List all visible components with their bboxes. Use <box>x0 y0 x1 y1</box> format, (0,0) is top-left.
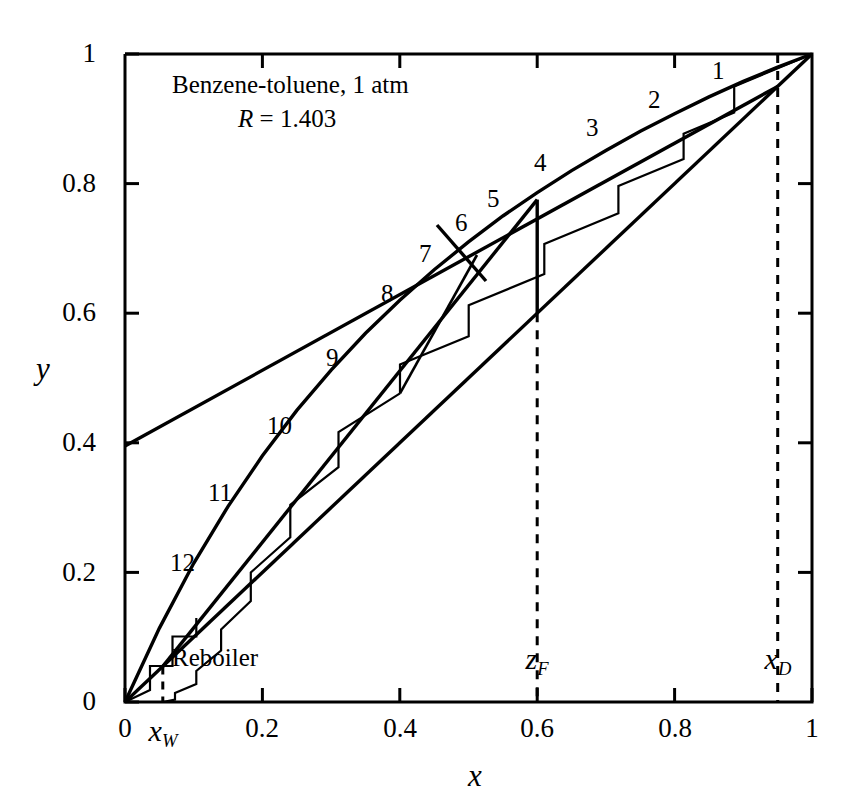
stage-label-8: 8 <box>381 281 394 306</box>
stage-label-4: 4 <box>534 150 547 175</box>
y-axis-right-ticks <box>798 184 812 573</box>
stripping-operating-line <box>163 200 537 667</box>
feed-stage-tie-line <box>400 255 477 393</box>
xd-subscript: D <box>778 658 791 679</box>
stage-label-2: 2 <box>648 87 661 112</box>
xw-label: xW <box>149 716 178 750</box>
reflux-ratio-symbol: R <box>238 105 253 132</box>
diagonal-45-line <box>125 54 812 702</box>
stage-label-1: 1 <box>712 58 725 83</box>
xw-symbol: x <box>149 714 162 747</box>
y-tick-label-0: 0 <box>83 688 97 715</box>
x-tick-label-0p2: 0.2 <box>245 715 279 742</box>
plot-canvas <box>0 0 855 810</box>
zf-subscript: F <box>537 658 548 679</box>
x-tick-label-1: 1 <box>805 715 819 742</box>
stage-label-3: 3 <box>586 115 599 140</box>
y-axis-title: y <box>36 353 50 384</box>
y-tick-label-0p2: 0.2 <box>62 559 96 586</box>
x-tick-label-0: 0 <box>118 715 132 742</box>
reflux-ratio-value: = 1.403 <box>253 105 336 132</box>
x-tick-label-0p8: 0.8 <box>658 715 692 742</box>
x-axis-ticks <box>125 688 812 702</box>
stage-label-9: 9 <box>326 345 339 370</box>
y-tick-label-0p6: 0.6 <box>62 299 96 326</box>
y-axis-ticks <box>125 54 139 702</box>
zf-symbol: z <box>525 642 537 675</box>
x-tick-label-0p4: 0.4 <box>383 715 417 742</box>
stage-label-11: 11 <box>208 480 232 505</box>
zf-label: zF <box>525 644 548 678</box>
stage-label-7: 7 <box>419 241 432 266</box>
y-tick-label-1: 1 <box>83 40 97 67</box>
stage-label-10: 10 <box>267 413 292 438</box>
xw-subscript: W <box>162 730 178 751</box>
y-tick-label-0p8: 0.8 <box>62 170 96 197</box>
stage-label-5: 5 <box>487 186 500 211</box>
y-tick-label-0p4: 0.4 <box>62 429 96 456</box>
stage-label-6: 6 <box>455 210 468 235</box>
mccabe-thiele-figure: 1 0.8 0.6 0.4 0.2 0 y 0 0.2 0.4 0.6 0.8 … <box>0 0 855 810</box>
stage-label-12: 12 <box>170 550 195 575</box>
x-axis-title: x <box>468 760 482 791</box>
xd-label: xD <box>765 644 792 678</box>
xd-symbol: x <box>765 642 778 675</box>
x-tick-label-0p6: 0.6 <box>520 715 554 742</box>
x-axis-top-ticks <box>262 54 674 68</box>
caption-line-2: R = 1.403 <box>238 106 336 131</box>
caption-line-1: Benzene-toluene, 1 atm <box>172 72 409 97</box>
reboiler-label: Reboiler <box>172 645 258 670</box>
